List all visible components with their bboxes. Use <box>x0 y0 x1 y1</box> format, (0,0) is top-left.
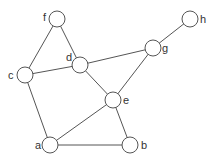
node-h: h <box>182 11 206 27</box>
node-b: b <box>122 137 147 153</box>
node-label: e <box>123 94 129 106</box>
node-g: g <box>145 40 168 56</box>
graph-diagram: abcdefgh <box>0 0 215 162</box>
node-label: g <box>162 42 168 54</box>
node-label: c <box>8 69 14 81</box>
node-circle <box>105 92 121 108</box>
edge-c-a <box>25 75 50 145</box>
nodes-layer: abcdefgh <box>8 11 206 153</box>
node-label: h <box>200 13 206 25</box>
node-label: f <box>43 11 47 23</box>
edge-f-c <box>25 19 57 75</box>
node-circle <box>182 11 198 27</box>
node-circle <box>72 57 88 73</box>
node-circle <box>49 11 65 27</box>
node-a: a <box>35 137 58 153</box>
node-circle <box>17 67 33 83</box>
node-e: e <box>105 92 129 108</box>
node-label: d <box>66 51 72 63</box>
node-d: d <box>66 51 88 73</box>
node-label: b <box>141 139 147 151</box>
edges-layer <box>25 19 190 145</box>
node-c: c <box>8 67 33 83</box>
edge-e-a <box>50 100 113 145</box>
node-f: f <box>43 11 65 27</box>
node-label: a <box>35 139 42 151</box>
node-circle <box>122 137 138 153</box>
node-circle <box>145 40 161 56</box>
node-circle <box>42 137 58 153</box>
